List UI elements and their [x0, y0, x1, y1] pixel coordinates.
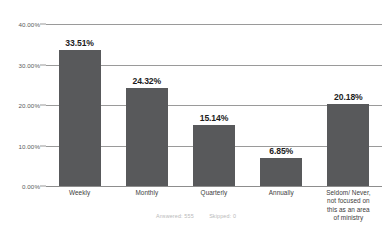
bar-series: 33.51% 24.32% 15.14% 6.85% 20.18% [46, 24, 382, 186]
skipped-count: Skipped: 0 [209, 213, 236, 219]
x-label-seldom-never-line-0: Seldom/ Never, [315, 189, 382, 197]
x-label-annually-line-0: Annually [248, 189, 315, 197]
bar-value-monthly: 24.32% [133, 76, 162, 86]
bar-slot-quarterly: 15.14% [180, 24, 247, 186]
x-label-seldom-never-line-1: not focused on [315, 197, 382, 205]
y-tick-label-10: 10.00% [0, 142, 40, 149]
x-label-monthly: Monthly [113, 189, 180, 197]
bar-slot-monthly: 24.32% [113, 24, 180, 186]
axis-baseline [46, 186, 382, 187]
bar-slot-annually: 6.85% [248, 24, 315, 186]
bar-slot-seldom-never: 20.18% [315, 24, 382, 186]
x-label-monthly-line-0: Monthly [113, 189, 180, 197]
x-label-weekly-line-0: Weekly [46, 189, 113, 197]
y-tick-label-0: 0.00% [0, 183, 40, 190]
y-tick-label-20: 20.00% [0, 102, 40, 109]
bar-weekly[interactable] [59, 50, 101, 186]
x-label-quarterly-line-0: Quarterly [180, 189, 247, 197]
x-label-quarterly: Quarterly [180, 189, 247, 197]
bar-value-seldom-never: 20.18% [334, 92, 363, 102]
bar-monthly[interactable] [126, 88, 168, 186]
bar-value-annually: 6.85% [269, 146, 293, 156]
y-tick-label-40: 40.00% [0, 21, 40, 28]
chart-footer: Answered: 555 Skipped: 0 [0, 213, 392, 219]
x-axis-labels: Weekly Monthly Quarterly Annually Seldom… [46, 189, 382, 235]
bar-seldom-never[interactable] [327, 104, 369, 186]
y-tick-label-30: 30.00% [0, 61, 40, 68]
answered-count: Answered: 555 [156, 213, 194, 219]
bar-value-weekly: 33.51% [65, 38, 94, 48]
bar-slot-weekly: 33.51% [46, 24, 113, 186]
bar-chart: 40.00% 30.00% 20.00% 10.00% 0.00% 33.51%… [0, 0, 392, 239]
bar-annually[interactable] [260, 158, 302, 186]
bar-value-quarterly: 15.14% [200, 113, 229, 123]
x-label-annually: Annually [248, 189, 315, 197]
x-label-weekly: Weekly [46, 189, 113, 197]
bar-quarterly[interactable] [193, 125, 235, 186]
